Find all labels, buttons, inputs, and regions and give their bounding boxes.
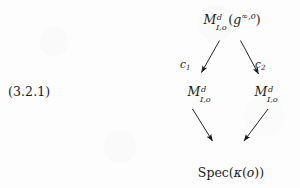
- node-top-argument-symbol: g: [233, 12, 241, 27]
- node-middle-right-symbol: M: [255, 84, 268, 99]
- node-middle-right-subscript: I,o: [267, 95, 278, 103]
- node-top-subscript: I,o: [216, 23, 227, 31]
- node-top: MdI,o(g∞,o): [232, 14, 289, 27]
- arrow-label-c2-subscript: 2: [261, 63, 266, 72]
- node-bottom-paren-close: ): [259, 165, 264, 180]
- arrow-label-c2-symbol: c: [255, 58, 261, 70]
- commutative-diagram-figure: (3.2.1) c1 c2 MdI,o(g∞,o) MdI,o: [0, 0, 300, 188]
- arrow-structure-right: [244, 109, 268, 141]
- node-bottom-kappa: κ: [234, 165, 242, 180]
- equation-tag: (3.2.1): [8, 84, 50, 99]
- arrow-c1: [202, 41, 220, 73]
- arrow-label-c1-symbol: c: [180, 58, 186, 70]
- node-middle-left-subscript: I,o: [200, 95, 211, 103]
- arrow-label-c1: c1: [180, 58, 190, 70]
- node-middle-left: MdI,o: [200, 86, 225, 99]
- node-middle-right: MdI,o: [267, 86, 292, 99]
- node-middle-left-superscript: d: [201, 85, 206, 93]
- node-bottom-operator: Spec: [198, 165, 229, 180]
- node-bottom: Spec(κ(o)): [231, 167, 297, 180]
- node-top-argument-superscript: ∞,o: [241, 11, 255, 21]
- arrow-label-c1-subscript: 1: [186, 63, 191, 72]
- arrow-label-c2: c2: [255, 58, 265, 70]
- node-top-superscript: d: [217, 13, 222, 21]
- node-top-symbol: M: [203, 12, 216, 27]
- node-middle-right-superscript: d: [268, 85, 273, 93]
- node-top-paren-close: ): [256, 12, 261, 27]
- node-middle-left-symbol: M: [188, 84, 201, 99]
- arrow-structure-left: [193, 109, 213, 141]
